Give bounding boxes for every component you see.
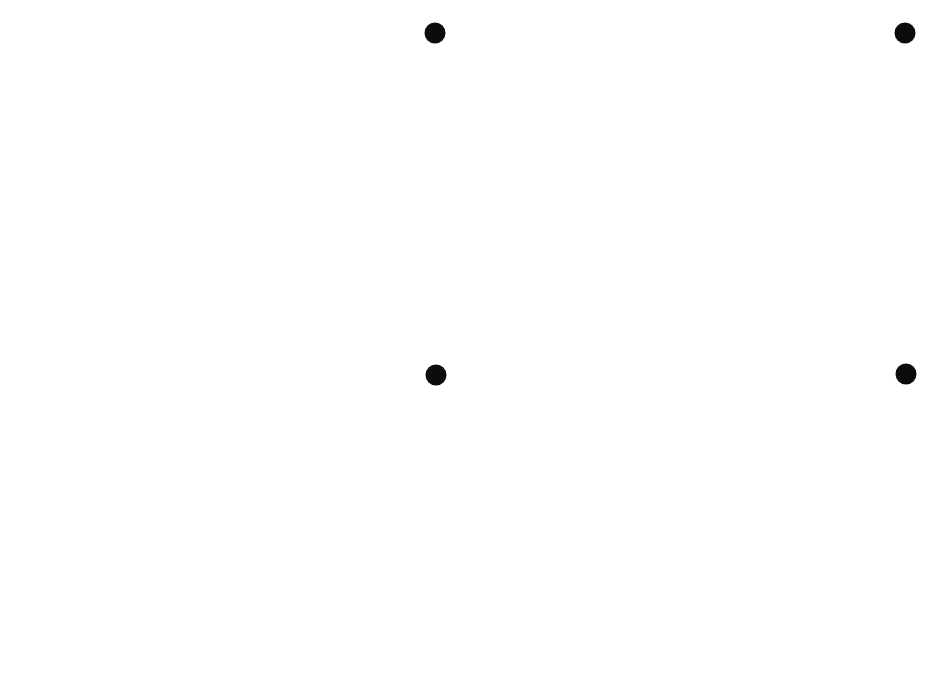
registration-dot-top-left	[425, 23, 446, 44]
registration-dot-bottom-left	[426, 365, 447, 386]
registration-dot-top-right	[895, 23, 916, 44]
scanned-blank-page	[0, 0, 942, 688]
registration-dot-bottom-right	[896, 364, 917, 385]
